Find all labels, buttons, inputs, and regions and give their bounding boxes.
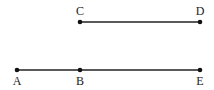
label-c: C bbox=[76, 4, 84, 18]
label-b: B bbox=[76, 74, 84, 88]
point-c bbox=[78, 20, 83, 25]
segment-diagram: C D A B E bbox=[0, 0, 214, 90]
point-b bbox=[78, 68, 83, 73]
label-a: A bbox=[13, 74, 22, 88]
point-a bbox=[15, 68, 20, 73]
label-d: D bbox=[196, 4, 205, 18]
point-d bbox=[198, 20, 203, 25]
label-e: E bbox=[196, 74, 203, 88]
point-e bbox=[198, 68, 203, 73]
